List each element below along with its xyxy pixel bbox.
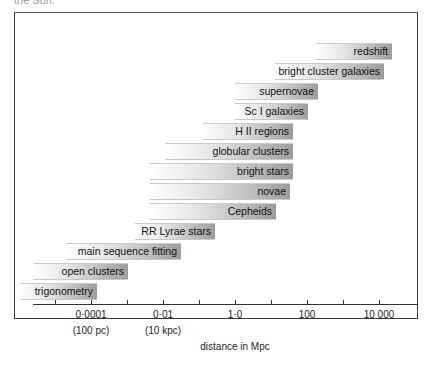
range-bar: trigonometry [20,283,97,300]
range-bar-label: H II regions [235,124,289,139]
range-bar-label: trigonometry [35,284,93,299]
range-bar-label: Cepheids [228,204,272,219]
caption-fragment: the Sun. [14,0,55,6]
x-axis-tick [343,300,344,305]
range-bar-label: redshift [354,44,388,59]
range-bar-label: Sc I galaxies [244,104,304,119]
range-bar-label: novae [257,184,286,199]
range-bar: main sequence fitting [66,243,181,260]
range-bar: bright cluster galaxies [275,63,384,80]
x-axis-tick-label: 0·01 [153,309,173,320]
chart-frame: redshiftbright cluster galaxiessupernova… [14,12,418,319]
x-axis-tick-label: 0·0001 [75,309,106,320]
range-bar: globular clusters [165,143,293,160]
x-axis-tick [163,300,164,305]
range-bar-label: supernovae [259,84,314,99]
range-bar-label: open clusters [62,264,124,279]
range-bar-label: main sequence fitting [78,244,177,259]
range-bar-label: bright cluster galaxies [278,64,380,79]
x-axis-tick [127,300,128,305]
range-bar: Sc I galaxies [235,103,308,120]
x-axis-tick [199,300,200,305]
range-bar: novae [150,183,290,200]
range-bar-label: bright stars [237,164,289,179]
x-axis-tick-label: 10 000 [364,309,395,320]
x-axis-title: distance in Mpc [200,341,269,352]
x-axis-tick [379,300,380,305]
range-bar: supernovae [235,83,318,100]
x-axis-tick [91,300,92,305]
range-bar-label: RR Lyrae stars [141,224,211,239]
x-axis-tick [235,300,236,305]
range-bar-label: globular clusters [213,144,289,159]
range-bar: H II regions [203,123,293,140]
range-bar: open clusters [33,263,128,280]
range-bar: bright stars [150,163,293,180]
x-axis-tick [307,300,308,305]
x-axis-tick-sublabel: (100 pc) [73,325,110,336]
range-bar: RR Lyrae stars [135,223,215,240]
x-axis-tick [55,300,56,305]
range-bar: redshift [316,43,392,60]
x-axis-tick-sublabel: (10 kpc) [145,325,181,336]
x-axis-tick-label: 100 [299,309,316,320]
x-axis-tick [271,300,272,305]
x-axis-tick-label: 1·0 [228,309,242,320]
range-bar: Cepheids [150,203,276,220]
